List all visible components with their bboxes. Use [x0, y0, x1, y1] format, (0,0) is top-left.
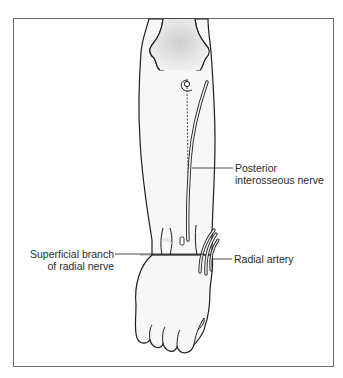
label-posterior-interosseous-nerve: Posterior interosseous nerve [235, 162, 324, 186]
label-line: of radial nerve [30, 260, 114, 272]
label-line: Radial artery [234, 253, 294, 265]
label-line: Superficial branch [30, 248, 114, 260]
entry-point-circle [184, 81, 189, 86]
label-line: interosseous nerve [235, 174, 324, 186]
label-radial-artery: Radial artery [234, 253, 294, 265]
label-superficial-branch-radial-nerve: Superficial branch of radial nerve [30, 248, 114, 272]
label-line: Posterior [235, 162, 324, 174]
forearm-illustration [0, 0, 343, 378]
